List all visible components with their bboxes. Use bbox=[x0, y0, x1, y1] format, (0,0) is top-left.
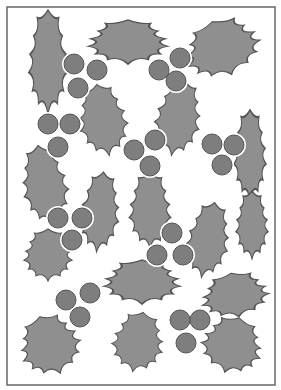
holly-berry bbox=[190, 310, 210, 330]
holly-berry bbox=[87, 60, 107, 80]
holly-berry bbox=[176, 333, 196, 353]
holly-berry bbox=[38, 114, 58, 134]
holly-leaf bbox=[29, 10, 67, 114]
holly-berry bbox=[68, 78, 88, 98]
holly-berry bbox=[48, 137, 68, 157]
holly-illustration bbox=[0, 0, 281, 390]
holly-berry bbox=[60, 114, 80, 134]
holly-berry bbox=[170, 48, 190, 68]
holly-berry bbox=[56, 290, 76, 310]
holly-berry bbox=[62, 230, 82, 250]
holly-berry bbox=[202, 134, 222, 154]
holly-berry bbox=[149, 60, 169, 80]
holly-berry bbox=[145, 130, 165, 150]
holly-berry bbox=[212, 155, 232, 175]
holly-berry bbox=[70, 307, 90, 327]
holly-berry bbox=[147, 245, 167, 265]
holly-leaf bbox=[104, 260, 181, 304]
holly-berry bbox=[170, 310, 190, 330]
holly-leaf bbox=[181, 199, 235, 281]
holly-berry bbox=[224, 135, 244, 155]
holly-berry bbox=[48, 208, 68, 228]
holly-leaf bbox=[176, 9, 267, 88]
leaves-layer bbox=[11, 9, 272, 384]
holly-leaf bbox=[236, 191, 268, 259]
holly-leaf bbox=[88, 20, 168, 64]
holly-berry bbox=[162, 223, 182, 243]
holly-berry bbox=[124, 140, 144, 160]
holly-leaf bbox=[108, 308, 169, 376]
holly-berry bbox=[140, 156, 160, 176]
holly-berry bbox=[166, 71, 186, 91]
holly-berry bbox=[64, 54, 84, 74]
holly-berry bbox=[173, 245, 193, 265]
holly-berry bbox=[80, 283, 100, 303]
holly-berry bbox=[72, 208, 92, 228]
